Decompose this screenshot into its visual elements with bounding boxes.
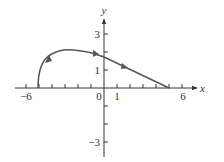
x-tick-label-neg6: −6 bbox=[20, 90, 32, 102]
y-tick-label-3: 3 bbox=[95, 28, 101, 40]
x-tick-label-0: 0 bbox=[96, 90, 102, 102]
y-axis-label: y bbox=[101, 4, 107, 16]
direction-arrow-3 bbox=[121, 63, 128, 69]
y-tick-label-neg3: −3 bbox=[88, 136, 100, 148]
y-tick-label-1: 1 bbox=[95, 64, 101, 76]
x-axis: −6 0 1 6 x bbox=[15, 82, 205, 102]
x-tick-label-1: 1 bbox=[114, 90, 120, 102]
direction-arrow-2 bbox=[93, 50, 99, 57]
x-tick-label-6: 6 bbox=[180, 90, 186, 102]
y-axis: 3 1 −3 y bbox=[88, 4, 108, 157]
x-axis-label: x bbox=[199, 82, 205, 94]
parametric-curve-diagram: −6 0 1 6 x 3 1 −3 y bbox=[0, 0, 224, 162]
